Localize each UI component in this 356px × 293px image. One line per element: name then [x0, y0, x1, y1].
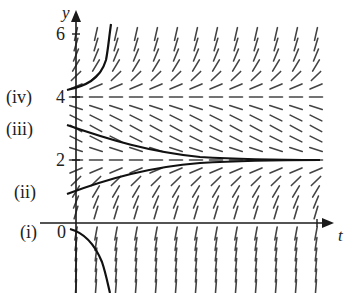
slope-segment	[310, 115, 322, 121]
slope-segment	[211, 176, 220, 185]
slope-segment	[230, 115, 242, 121]
slope-segment	[214, 206, 218, 218]
slope-segment	[171, 71, 180, 80]
slope-segment	[251, 176, 260, 185]
slope-segment	[250, 168, 262, 173]
slope-segment	[210, 84, 222, 89]
slope-segment	[270, 148, 282, 152]
slope-segment	[250, 136, 262, 142]
slope-segment	[190, 148, 202, 152]
slope-segment	[190, 168, 202, 173]
slope-segment	[170, 115, 182, 121]
slope-segment	[230, 84, 242, 89]
slope-segment	[114, 206, 118, 218]
slope-segment	[270, 136, 282, 142]
slope-segment	[294, 206, 298, 218]
solution-label-iv: (iv)	[6, 87, 32, 108]
slope-segment	[270, 84, 282, 89]
slope-segment	[170, 84, 182, 89]
slope-segment	[210, 125, 221, 131]
slope-segment	[270, 106, 282, 110]
y-axis-arrow-icon	[71, 10, 81, 22]
slope-segment	[291, 176, 300, 185]
slope-field-diagram: y t 6 4 2 0 (iv) (iii) (ii) (i)	[0, 0, 356, 293]
slope-segment	[251, 71, 260, 80]
y-tick-label-2: 2	[56, 150, 65, 170]
slope-segment	[231, 71, 240, 80]
slope-segment	[291, 71, 300, 80]
slope-segment	[290, 148, 302, 152]
slope-segment	[270, 115, 282, 121]
slope-segment	[250, 106, 262, 110]
slope-segment	[134, 206, 138, 218]
slope-segment	[190, 84, 202, 89]
slope-segment	[154, 206, 158, 218]
slope-segment	[311, 71, 320, 80]
slope-segment	[90, 125, 101, 131]
solution-label-iii: (iii)	[6, 119, 33, 140]
slope-segment	[170, 168, 182, 173]
slope-segment	[171, 176, 180, 185]
slope-segment	[290, 136, 302, 142]
y-tick-label-0: 0	[57, 222, 66, 242]
slope-segment	[190, 115, 202, 121]
slope-segment	[250, 84, 262, 89]
slope-segment	[131, 71, 140, 80]
slope-segment	[190, 125, 201, 131]
slope-segment	[150, 106, 162, 110]
slope-segment	[310, 136, 322, 142]
slope-segment	[310, 148, 322, 152]
slope-segment	[130, 125, 141, 131]
slope-segment	[210, 115, 222, 121]
slope-segment	[110, 84, 122, 89]
slope-segment	[271, 71, 280, 80]
slope-segment	[90, 168, 102, 173]
slope-segment	[290, 125, 301, 131]
slope-segment	[90, 84, 102, 89]
slope-segment	[190, 136, 202, 142]
slope-segment	[90, 148, 102, 152]
slope-segment	[110, 125, 121, 131]
slope-segment	[231, 176, 240, 185]
slope-segment	[150, 125, 161, 131]
slope-segment	[194, 206, 198, 218]
slope-segment	[254, 206, 258, 218]
slope-segment	[151, 176, 160, 185]
slope-segment	[130, 106, 142, 110]
solution-curve-ii	[67, 160, 320, 194]
slope-segment	[110, 168, 122, 173]
slope-segment	[170, 106, 182, 110]
slope-segment	[191, 71, 200, 80]
slope-segment	[174, 206, 178, 218]
t-axis-arrow-icon	[322, 218, 334, 228]
slope-segment	[150, 115, 162, 121]
slope-segment	[170, 148, 182, 152]
slope-segment	[210, 168, 222, 173]
slope-segment	[211, 71, 220, 80]
solution-label-i: (i)	[20, 222, 37, 243]
slope-segment	[270, 125, 281, 131]
y-tick-label-4: 4	[56, 87, 65, 107]
slope-segment	[151, 71, 160, 80]
slope-segment	[230, 168, 242, 173]
slope-segment	[310, 106, 322, 110]
slope-segment	[210, 136, 222, 142]
slope-segment	[290, 168, 302, 173]
slope-segment	[90, 106, 102, 110]
slope-segment	[314, 206, 318, 218]
slope-segment	[110, 148, 122, 152]
slope-segment	[170, 136, 182, 142]
slope-segment	[230, 125, 241, 131]
slope-segment	[130, 84, 142, 89]
slope-segment	[130, 136, 142, 142]
solution-label-ii: (ii)	[14, 182, 36, 203]
slope-segment	[310, 125, 321, 131]
slope-segment	[250, 125, 261, 131]
slope-segment	[110, 106, 122, 110]
slope-segment	[110, 115, 122, 121]
slope-segment	[310, 168, 322, 173]
slope-segment	[170, 125, 181, 131]
slope-segment	[290, 115, 302, 121]
slope-segment	[230, 106, 242, 110]
slope-segment	[250, 115, 262, 121]
